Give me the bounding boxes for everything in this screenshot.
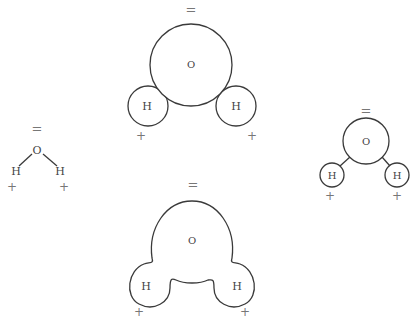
bond-line	[382, 157, 390, 166]
oxygen-charge: =	[32, 121, 43, 136]
hydrogen-charge: +	[136, 129, 146, 143]
bond-line	[340, 157, 350, 166]
hydrogen-label: H	[142, 100, 152, 113]
oxygen-label: O	[32, 144, 41, 157]
water-molecule-diagram: = O H H + + = O H H + + = O H H + + = O	[0, 0, 416, 326]
hydrogen-label: H	[11, 165, 21, 178]
space-filling-water-model: = O H H + +	[128, 2, 257, 143]
hydrogen-charge: +	[134, 305, 144, 319]
bond-line	[19, 154, 32, 166]
hydrogen-charge: +	[59, 180, 69, 194]
hydrogen-label: H	[141, 280, 151, 293]
hydrogen-label: H	[393, 170, 402, 181]
hydrogen-charge: +	[247, 129, 257, 143]
oxygen-charge: =	[188, 177, 199, 192]
oxygen-charge: =	[186, 2, 197, 17]
hydrogen-charge: +	[7, 180, 17, 194]
oxygen-label: O	[188, 235, 196, 246]
hydrogen-label: H	[231, 100, 241, 113]
electron-cloud-water-model: = O H H + +	[130, 177, 255, 319]
oxygen-label: O	[362, 136, 370, 147]
hydrogen-charge: +	[325, 189, 335, 203]
hydrogen-label: H	[328, 170, 337, 181]
hydrogen-charge: +	[392, 189, 402, 203]
hydrogen-label: H	[232, 280, 242, 293]
oxygen-charge: =	[361, 103, 372, 118]
hydrogen-label: H	[55, 165, 65, 178]
oxygen-label: O	[187, 59, 195, 70]
ball-and-stick-water-model: = O H H + +	[320, 103, 409, 203]
hydrogen-charge: +	[240, 305, 250, 319]
skeletal-water-model: = O H H + +	[7, 121, 69, 194]
